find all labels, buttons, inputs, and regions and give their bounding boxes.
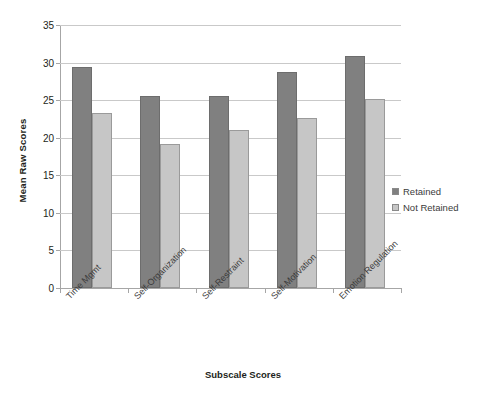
legend-label: Retained [403, 186, 441, 197]
legend-item: Retained [392, 186, 482, 197]
legend-label: Not Retained [403, 202, 458, 213]
x-tick-mark [60, 288, 61, 293]
legend-item: Not Retained [392, 202, 482, 213]
y-tick-label: 0 [48, 283, 54, 294]
y-axis-title: Mean Raw Scores [17, 91, 28, 231]
y-tick-label: 15 [43, 170, 54, 181]
x-tick-mark [265, 288, 266, 293]
bar [72, 67, 92, 288]
bar [277, 72, 297, 288]
y-tick-label: 10 [43, 207, 54, 218]
bar-chart: Mean Raw Scores 05101520253035 Time Mgmt… [0, 0, 486, 398]
plot-area: 05101520253035 [60, 25, 401, 288]
y-tick-label: 30 [43, 57, 54, 68]
chart-legend: RetainedNot Retained [392, 186, 482, 218]
x-tick-mark [333, 288, 334, 293]
bar [140, 96, 160, 288]
legend-swatch-icon [392, 188, 399, 195]
bar [345, 56, 365, 288]
bar [209, 96, 229, 288]
x-tick-mark [196, 288, 197, 293]
y-tick-label: 25 [43, 95, 54, 106]
x-axis-title: Subscale Scores [0, 369, 486, 380]
bars-layer [60, 25, 401, 288]
x-tick-mark [401, 288, 402, 293]
y-tick-label: 35 [43, 20, 54, 31]
x-tick-mark [128, 288, 129, 293]
y-tick-label: 5 [48, 245, 54, 256]
legend-swatch-icon [392, 204, 399, 211]
y-tick-label: 20 [43, 132, 54, 143]
